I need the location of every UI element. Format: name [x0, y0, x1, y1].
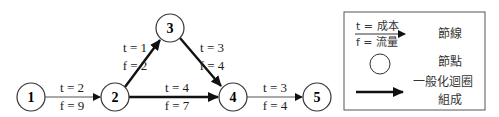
legend-edge-cost: t = 成本	[356, 19, 399, 33]
legend-node-label: 節點	[438, 54, 462, 69]
edge-2-3-flow: f = 2	[123, 58, 148, 73]
node-5: 5	[303, 83, 331, 111]
edge-1-2: t = 2 f = 9	[45, 80, 100, 113]
edge-2-4-cost: t = 4	[165, 80, 189, 95]
edge-4-5: t = 3 f = 4	[247, 80, 302, 113]
edge-4-5-cost: t = 3	[263, 80, 287, 95]
edge-2-4-flow: f = 7	[165, 98, 190, 113]
edge-4-5-flow: f = 4	[263, 98, 288, 113]
node-2: 2	[101, 83, 129, 111]
edge-1-2-cost: t = 2	[60, 80, 84, 95]
edge-2-3-cost: t = 1	[123, 40, 147, 55]
legend-cycle-label-line1: 一般化迴圈	[413, 74, 473, 89]
legend-edge-label: 節線	[438, 26, 462, 41]
node-3-label: 3	[167, 21, 174, 36]
node-3: 3	[156, 14, 184, 42]
node-4-label: 4	[230, 90, 237, 105]
edge-2-4: t = 4 f = 7	[129, 80, 218, 113]
edge-2-3: t = 1 f = 2	[123, 40, 160, 87]
edge-3-4-cost: t = 3	[200, 40, 224, 55]
node-2-label: 2	[112, 90, 119, 105]
network-flow-diagram: t = 2 f = 9 t = 1 f = 2 t = 3 f = 4 t = …	[0, 0, 499, 117]
edge-3-4-flow: f = 4	[200, 58, 225, 73]
legend-cycle-label-line2: 組成	[438, 93, 462, 107]
node-4: 4	[219, 83, 247, 111]
edge-1-2-flow: f = 9	[60, 98, 85, 113]
edge-3-4: t = 3 f = 4	[180, 38, 225, 86]
legend: t = 成本 f = 流量 節線 節點 一般化迴圈 組成	[344, 12, 485, 110]
node-1-label: 1	[28, 90, 35, 105]
node-5-label: 5	[314, 90, 321, 105]
node-1: 1	[17, 83, 45, 111]
legend-edge-flow: f = 流量	[356, 35, 398, 49]
